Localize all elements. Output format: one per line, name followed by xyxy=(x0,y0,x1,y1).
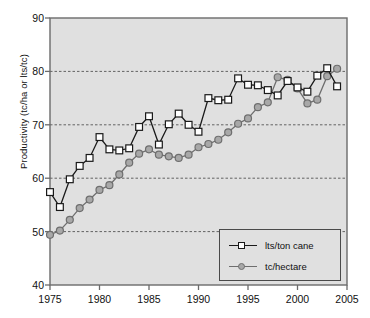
data-point-marker xyxy=(225,96,232,103)
data-point-marker xyxy=(324,65,331,72)
data-point-marker xyxy=(334,83,341,90)
square-icon xyxy=(228,239,258,253)
data-point-marker xyxy=(225,129,232,136)
data-point-marker xyxy=(245,81,252,88)
productivity-line-chart: Productivity (tc/ha or lts/tc) 405060708… xyxy=(0,0,370,318)
data-point-marker xyxy=(245,115,252,122)
data-point-marker xyxy=(165,121,172,128)
data-point-marker xyxy=(185,151,192,158)
data-point-marker xyxy=(175,154,182,161)
data-point-marker xyxy=(235,75,242,82)
data-point-marker xyxy=(126,159,133,166)
data-point-marker xyxy=(274,92,281,99)
circle-icon xyxy=(228,260,258,274)
data-point-marker xyxy=(146,146,153,153)
legend-label: tc/hectare xyxy=(265,261,307,272)
legend-label: lts/ton cane xyxy=(265,240,314,251)
data-point-marker xyxy=(235,120,242,127)
data-point-marker xyxy=(136,150,143,157)
data-point-marker xyxy=(86,155,93,162)
data-point-marker xyxy=(205,95,212,102)
data-point-marker xyxy=(334,65,341,72)
data-point-marker xyxy=(264,87,271,94)
data-point-marker xyxy=(314,96,321,103)
data-point-marker xyxy=(96,134,103,141)
data-point-marker xyxy=(76,163,83,170)
data-point-marker xyxy=(215,97,222,104)
data-point-marker xyxy=(195,144,202,151)
data-point-marker xyxy=(156,141,163,148)
data-point-marker xyxy=(304,88,311,95)
data-point-marker xyxy=(106,182,113,189)
data-point-marker xyxy=(116,147,123,154)
data-point-marker xyxy=(155,151,162,158)
data-point-marker xyxy=(66,176,73,183)
data-point-marker xyxy=(254,104,261,111)
data-point-marker xyxy=(185,121,192,128)
data-point-marker xyxy=(146,113,153,120)
data-point-marker xyxy=(284,78,291,85)
legend-entry: tc/hectare xyxy=(228,256,340,277)
data-point-marker xyxy=(96,186,103,193)
data-point-marker xyxy=(76,205,83,212)
legend-entry: lts/ton cane xyxy=(228,235,340,256)
data-point-marker xyxy=(255,82,262,89)
data-point-marker xyxy=(86,196,93,203)
data-point-marker xyxy=(47,231,54,238)
data-point-marker xyxy=(116,171,123,178)
data-point-marker xyxy=(304,100,311,107)
data-point-marker xyxy=(205,141,212,148)
data-point-marker xyxy=(274,74,281,81)
data-point-marker xyxy=(106,146,113,153)
data-point-marker xyxy=(264,99,271,106)
data-point-marker xyxy=(57,204,64,211)
data-point-marker xyxy=(195,128,202,135)
data-point-marker xyxy=(56,227,63,234)
data-point-marker xyxy=(47,189,54,196)
data-point-marker xyxy=(215,136,222,143)
data-point-marker xyxy=(126,145,133,152)
data-point-marker xyxy=(165,153,172,160)
chart-legend: lts/ton canetc/hectare xyxy=(219,229,341,281)
data-point-marker xyxy=(175,110,182,117)
data-point-marker xyxy=(136,124,143,131)
data-point-marker xyxy=(66,216,73,223)
data-point-marker xyxy=(294,84,301,91)
data-point-marker xyxy=(314,72,321,79)
